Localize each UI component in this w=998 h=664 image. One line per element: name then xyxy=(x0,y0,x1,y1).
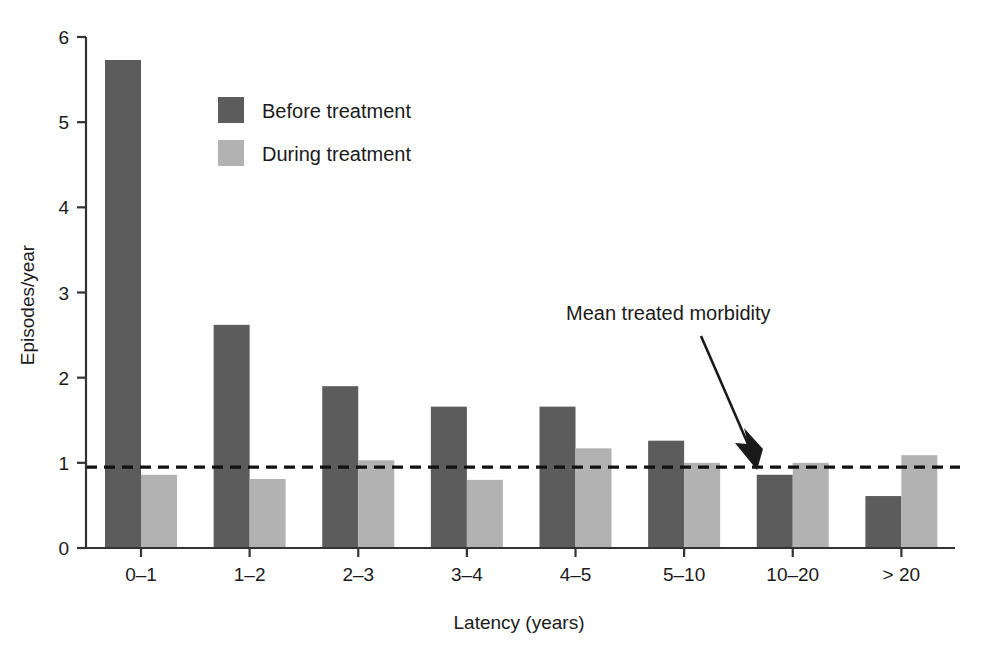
legend-swatch-before-treatment xyxy=(218,97,244,123)
bar-during-10-20 xyxy=(793,463,829,548)
y-tick-label: 4 xyxy=(58,197,69,218)
bar-during-1-2 xyxy=(250,479,286,548)
bar-chart-figure: 0123456 0–11–22–33–44–55–1010–20> 20 Epi… xyxy=(0,0,998,664)
legend-swatch-during-treatment xyxy=(218,140,244,166)
y-tick-label: 5 xyxy=(58,112,69,133)
bar-before-3-4 xyxy=(431,407,467,548)
y-tick-label: 3 xyxy=(58,283,69,304)
y-tick-label: 0 xyxy=(58,538,69,559)
x-tick-label: > 20 xyxy=(883,564,921,585)
bar-during--20 xyxy=(901,455,937,548)
x-tick-label: 4–5 xyxy=(560,564,592,585)
bar-during-2-3 xyxy=(358,460,394,548)
bar-before-1-2 xyxy=(214,325,250,548)
bar-before--20 xyxy=(865,496,901,548)
annotation-text: Mean treated morbidity xyxy=(566,302,771,324)
y-tick-label: 2 xyxy=(58,368,69,389)
bar-before-0-1 xyxy=(105,60,141,548)
bar-during-5-10 xyxy=(684,463,720,548)
bar-before-10-20 xyxy=(757,475,793,548)
bar-during-4-5 xyxy=(576,448,612,548)
y-tick-label: 1 xyxy=(58,453,69,474)
y-tick-label: 6 xyxy=(58,27,69,48)
y-axis-title: Episodes/year xyxy=(17,244,38,365)
bar-during-0-1 xyxy=(141,475,177,548)
chart-canvas: 0123456 0–11–22–33–44–55–1010–20> 20 Epi… xyxy=(0,0,998,664)
x-axis-title: Latency (years) xyxy=(454,612,585,633)
x-tick-label: 2–3 xyxy=(342,564,374,585)
x-tick-label: 1–2 xyxy=(234,564,266,585)
x-tick-label: 5–10 xyxy=(663,564,705,585)
bar-before-5-10 xyxy=(648,441,684,548)
legend-label-during-treatment: During treatment xyxy=(262,143,411,165)
x-tick-label: 3–4 xyxy=(451,564,483,585)
legend-label-before-treatment: Before treatment xyxy=(262,100,411,122)
bar-during-3-4 xyxy=(467,480,503,548)
bar-before-4-5 xyxy=(540,407,576,548)
x-tick-label: 0–1 xyxy=(125,564,157,585)
x-tick-label: 10–20 xyxy=(766,564,819,585)
